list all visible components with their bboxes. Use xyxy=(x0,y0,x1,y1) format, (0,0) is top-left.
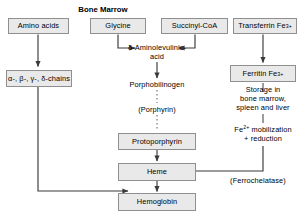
mobilization-line-2: + reduction xyxy=(244,134,282,143)
node-heme: Heme xyxy=(118,163,196,181)
mobilization-prefix: Fe xyxy=(234,125,243,134)
ferritin-label: Ferritin Fe xyxy=(243,70,278,78)
node-globin-chains: α-, β-, γ-, δ-chains xyxy=(6,70,72,87)
label-aminolevulinic-acid: δ-Aminolevulinic- acid xyxy=(107,43,207,61)
node-ferritin: Ferritin Fe3+ xyxy=(230,65,296,82)
storage-line-2: bone marrow, xyxy=(240,94,286,103)
label-porphyrin: (Porphyrin) xyxy=(120,105,194,114)
node-succinyl-coa: Succinyl-CoA xyxy=(161,18,228,34)
node-hemoglobin: Hemoglobin xyxy=(118,193,196,211)
node-transferrin: Transferrin Fe3+ xyxy=(233,18,297,34)
mobilization-rest: mobilization xyxy=(249,125,291,134)
ala-line-1: δ-Aminolevulinic- xyxy=(128,43,186,52)
transferrin-label: Transferrin Fe xyxy=(238,22,286,30)
ala-line-2: acid xyxy=(150,52,164,61)
label-porphobilinogen: Porphobilinogen xyxy=(112,80,202,89)
label-ferrochelatase: (Ferrochelatase) xyxy=(213,176,303,185)
storage-line-1: Storage in xyxy=(246,85,281,94)
arrow-iron-to-heme xyxy=(190,146,263,171)
storage-line-3: spleen and liver xyxy=(236,103,289,112)
label-iron-mobilization: Fe2+ mobilization + reduction xyxy=(218,125,306,143)
node-protoporphyrin: Protoporphyrin xyxy=(118,133,196,150)
node-amino-acids: Amino acids xyxy=(8,18,69,34)
node-glycine: Glycine xyxy=(90,18,146,34)
label-iron-storage: Storage in bone marrow, spleen and liver xyxy=(218,85,306,112)
diagram-title: Bone Marrow xyxy=(48,5,158,14)
arrow-chains-to-hemoglobin xyxy=(38,87,128,191)
heme-synthesis-diagram: Bone Marrow Amino acids Glycine Succinyl… xyxy=(0,0,306,220)
